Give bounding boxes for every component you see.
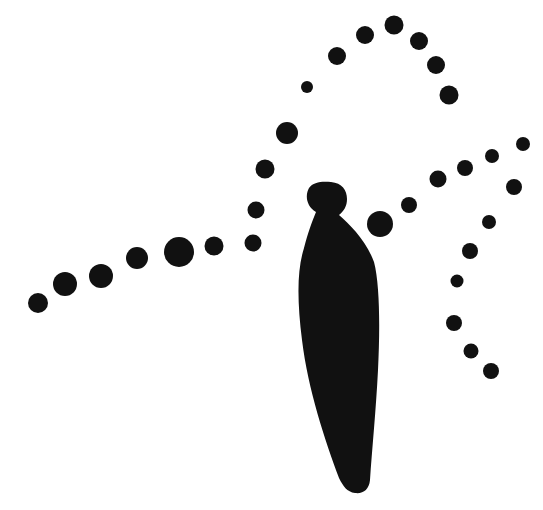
dot — [301, 81, 313, 93]
dot — [440, 86, 459, 105]
illustration-canvas — [0, 0, 543, 510]
dot — [126, 247, 148, 269]
dot — [506, 179, 522, 195]
dot — [462, 243, 478, 259]
dot — [385, 16, 404, 35]
dot — [446, 315, 462, 331]
dot — [427, 56, 445, 74]
dotted-paths — [28, 16, 530, 380]
dot — [328, 47, 346, 65]
dot — [89, 264, 113, 288]
abstract-figure-illustration — [0, 0, 543, 510]
dot — [256, 160, 275, 179]
dot — [367, 211, 393, 237]
dot — [245, 235, 262, 252]
standing-figure-silhouette — [298, 182, 379, 493]
dot — [401, 197, 417, 213]
dot — [451, 275, 464, 288]
dot — [356, 26, 374, 44]
dot — [410, 32, 428, 50]
dot — [483, 363, 499, 379]
dot — [53, 272, 77, 296]
dot — [430, 171, 447, 188]
dot — [482, 215, 496, 229]
dot — [164, 237, 194, 267]
dot — [205, 237, 224, 256]
dot — [516, 137, 530, 151]
dot — [464, 344, 479, 359]
dot — [457, 160, 473, 176]
dot — [248, 202, 265, 219]
dot — [28, 293, 48, 313]
dot — [276, 122, 298, 144]
dot — [485, 149, 499, 163]
